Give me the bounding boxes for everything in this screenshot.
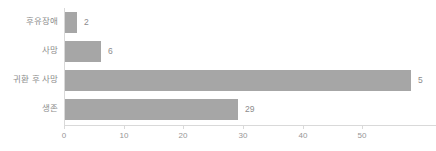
bar-row: 29	[65, 95, 436, 124]
x-tick-0	[64, 125, 65, 129]
bar-value-1: 6	[108, 45, 113, 57]
category-label-3: 생존	[0, 102, 58, 114]
x-tick-40	[303, 125, 304, 129]
x-tick-10	[124, 125, 125, 129]
category-label-1: 사망	[0, 44, 58, 56]
bar-row: 2	[65, 8, 436, 37]
x-tick-label-10: 10	[120, 131, 129, 141]
x-tick-20	[183, 125, 184, 129]
bar-row: 6	[65, 37, 436, 66]
bar-3[interactable]	[65, 99, 238, 120]
x-tick-label-30: 30	[239, 131, 248, 141]
x-axis-line	[64, 125, 436, 126]
bar-value-2: 5	[418, 74, 423, 86]
x-tick-50	[362, 125, 363, 129]
bar-2[interactable]	[65, 70, 411, 91]
bar-1[interactable]	[65, 41, 101, 62]
category-label-2: 귀환 후 사망	[0, 73, 58, 85]
x-tick-30	[243, 125, 244, 129]
x-tick-label-50: 50	[358, 131, 367, 141]
x-tick-label-0: 0	[62, 131, 66, 141]
bar-row: 5	[65, 66, 436, 95]
x-tick-label-40: 40	[299, 131, 308, 141]
bar-value-3: 29	[245, 103, 254, 115]
bar-0[interactable]	[65, 12, 77, 33]
category-label-0: 후유장애	[0, 15, 58, 27]
bar-chart: 0 10 20 30 40 50 후유장애 사망 귀환 후 사망 생존 2 6 …	[0, 0, 436, 151]
bar-value-0: 2	[84, 16, 89, 28]
x-tick-label-20: 20	[179, 131, 188, 141]
